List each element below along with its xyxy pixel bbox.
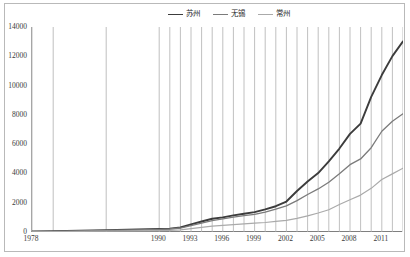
- plot-area: [31, 27, 402, 232]
- x-axis-tick-label: 2011: [373, 235, 388, 243]
- x-axis-tick-label: 1990: [151, 235, 166, 243]
- legend-swatch-wuxi: [213, 14, 228, 15]
- x-axis-tick-label: 2008: [342, 235, 357, 243]
- x-axis-tick-label: 1993: [183, 235, 198, 243]
- chart-figure: 苏州 无锡 常州 0200040006000800010000120001400…: [0, 0, 410, 257]
- y-axis-tick-label: 6000: [12, 140, 27, 148]
- legend-label-wuxi: 无锡: [231, 10, 245, 18]
- legend-swatch-changzhou: [258, 14, 273, 15]
- series-line-0: [32, 41, 403, 231]
- y-axis-labels: 02000400060008000100001200014000: [0, 0, 31, 232]
- y-axis-tick-label: 4000: [12, 170, 27, 178]
- legend-item-wuxi: 无锡: [213, 10, 245, 18]
- series-line-2: [32, 168, 403, 232]
- y-axis-tick-label: 10000: [8, 82, 27, 90]
- legend-item-changzhou: 常州: [258, 10, 290, 18]
- y-axis-tick-label: 8000: [12, 111, 27, 119]
- legend-label-suzhou: 苏州: [186, 10, 200, 18]
- legend-item-suzhou: 苏州: [168, 10, 200, 18]
- y-axis-tick-label: 2000: [12, 199, 27, 207]
- y-axis-tick-label: 14000: [8, 23, 27, 31]
- legend-label-changzhou: 常州: [276, 10, 290, 18]
- x-axis-tick-label: 1999: [246, 235, 261, 243]
- series-line-1: [32, 114, 403, 232]
- x-axis-tick-label: 2002: [278, 235, 293, 243]
- x-axis-labels: 197819901993199619992002200520082011: [31, 235, 402, 249]
- y-axis-tick-label: 12000: [8, 53, 27, 61]
- plot-svg: [32, 27, 403, 232]
- x-axis-tick-label: 2005: [310, 235, 325, 243]
- x-axis-tick-label: 1996: [214, 235, 229, 243]
- legend-swatch-suzhou: [168, 14, 183, 15]
- chart-legend: 苏州 无锡 常州: [168, 7, 290, 21]
- x-axis-tick-label: 1978: [24, 235, 39, 243]
